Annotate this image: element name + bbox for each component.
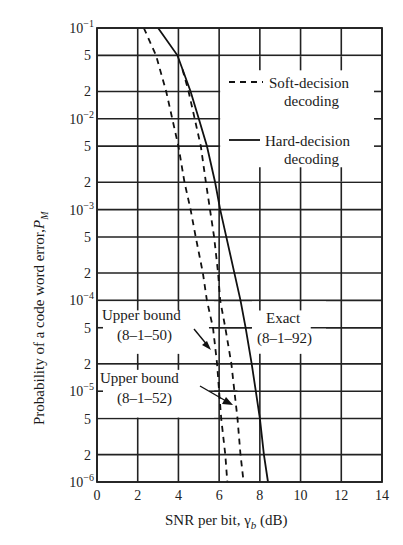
annotation-exact-line2: (8–1–92) (257, 330, 312, 347)
legend-hard-line2: decoding (284, 151, 339, 167)
y-tick-label: 2 (84, 357, 91, 372)
x-tick-label: 12 (334, 488, 348, 503)
x-tick-label: 10 (294, 488, 308, 503)
annotation-ub50-line1: Upper bound (102, 307, 181, 323)
x-tick-label: 6 (216, 488, 223, 503)
error-probability-chart: 10−15210−25210−35210−45210−55210−6 02468… (0, 0, 403, 545)
x-tick-label: 0 (94, 488, 101, 503)
legend-soft-line2: decoding (284, 93, 339, 109)
annotation-ub50-line2: (8–1–50) (117, 327, 172, 344)
y-tick-label: 2 (84, 175, 91, 190)
y-tick-label: 5 (84, 230, 91, 245)
y-tick-label: 5 (84, 139, 91, 154)
annotation-ub52-line1: Upper bound (100, 370, 179, 386)
annotation-exact-line1: Exact (266, 310, 301, 326)
x-tick-label: 2 (134, 488, 141, 503)
annotation-ub52-line2: (8–1–52) (117, 390, 172, 407)
x-tick-label: 14 (375, 488, 389, 503)
y-tick-label: 5 (84, 321, 91, 336)
legend-soft-line1: Soft-decision (269, 75, 349, 91)
y-tick-label: 2 (84, 84, 91, 99)
y-tick-label: 2 (84, 448, 91, 463)
y-tick-label: 2 (84, 266, 91, 281)
x-tick-label: 8 (256, 488, 263, 503)
x-tick-label: 4 (175, 488, 182, 503)
y-tick-label: 5 (84, 412, 91, 427)
y-tick-label: 5 (84, 48, 91, 63)
legend-hard-line1: Hard-decision (265, 133, 350, 149)
